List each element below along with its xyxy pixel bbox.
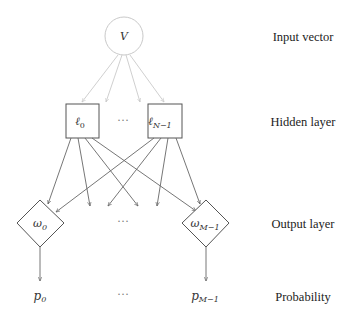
probability-ellipsis: ··· xyxy=(117,287,129,301)
probability-0: p0 xyxy=(34,289,47,304)
probability-m-minus-1: pM−1 xyxy=(191,289,219,304)
output-ellipsis: ··· xyxy=(117,214,129,228)
output-node-0-sub: 0 xyxy=(42,223,47,232)
output-node-0-label: ω xyxy=(33,217,42,230)
layer-label-input: Input vector xyxy=(273,30,335,44)
hidden-node-0: ℓ0 xyxy=(66,104,99,138)
input-node-label: V xyxy=(120,30,129,43)
hidden-node-n-minus-1: ℓN−1 xyxy=(148,104,182,138)
layer-label-probability: Probability xyxy=(275,290,331,304)
input-edges xyxy=(82,55,164,102)
network-diagram: V ℓ0 ··· ℓN−1 ω0 xyxy=(0,0,340,318)
output-node-m-sub: M−1 xyxy=(199,223,220,232)
output-node-0: ω0 xyxy=(17,200,64,247)
output-probability-edges xyxy=(40,247,206,281)
hidden-ellipsis: ··· xyxy=(117,113,129,127)
hidden-output-edges xyxy=(48,138,200,212)
layer-label-output: Output layer xyxy=(272,217,336,231)
hidden-node-n-sub: N−1 xyxy=(152,121,172,130)
hidden-node-0-sub: 0 xyxy=(80,121,85,130)
input-node: V xyxy=(105,17,143,55)
output-node-m-minus-1: ωM−1 xyxy=(182,200,229,247)
layer-label-hidden: Hidden layer xyxy=(271,115,337,129)
output-node-m-label: ω xyxy=(191,217,200,230)
